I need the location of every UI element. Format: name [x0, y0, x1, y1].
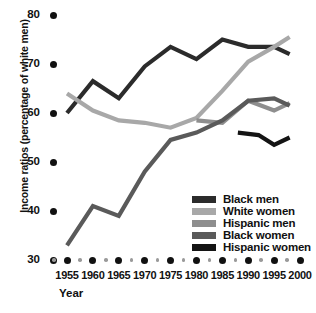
legend-label: White women [223, 206, 295, 218]
legend-label: Hispanic women [223, 242, 311, 254]
legend-label: Hispanic men [223, 218, 295, 230]
income-ratio-line-chart: Income ratios (percentage of white men) … [0, 0, 316, 313]
plot-area [0, 0, 316, 313]
legend-label: Black women [223, 230, 294, 242]
series-line-hispanic-women [238, 133, 290, 145]
legend-swatch [192, 208, 216, 215]
legend-item-hispanic-men: Hispanic men [192, 218, 311, 229]
legend-swatch [192, 196, 216, 203]
legend-swatch [192, 220, 216, 227]
legend: Black menWhite womenHispanic menBlack wo… [192, 194, 311, 254]
legend-label: Black men [223, 194, 279, 206]
legend-item-white-women: White women [192, 206, 311, 217]
x-axis-title: Year [59, 287, 83, 299]
legend-swatch [192, 244, 216, 251]
legend-item-black-women: Black women [192, 230, 311, 241]
legend-item-black-men: Black men [192, 194, 311, 205]
legend-swatch [192, 232, 216, 239]
legend-item-hispanic-women: Hispanic women [192, 242, 311, 253]
